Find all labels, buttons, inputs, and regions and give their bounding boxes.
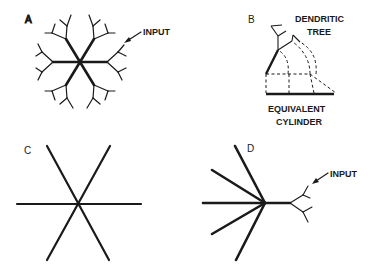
input-arrow-d	[316, 173, 328, 181]
input-label-d: INPUT	[330, 169, 358, 179]
panel-a: A	[25, 14, 171, 108]
dendritic-label: DENDRITIC	[295, 14, 344, 24]
panel-b-label: B	[248, 14, 255, 25]
figure-canvas: A	[0, 0, 373, 269]
cylinder-label: CYLINDER	[276, 117, 323, 127]
panel-a-label: A	[25, 14, 32, 25]
input-label-a: INPUT	[143, 27, 171, 37]
tree-label: TREE	[307, 27, 331, 37]
branched-dendrite	[290, 186, 312, 222]
arrowhead-icon	[124, 37, 131, 43]
dendritic-tree	[271, 25, 300, 50]
equivalence-arcs	[266, 42, 336, 93]
equivalent-cylinders	[203, 146, 290, 260]
panel-b: B DENDRITIC TREE EQUIVALENT CYLINDER	[248, 14, 344, 127]
trunk	[266, 50, 278, 74]
panel-d-label: D	[247, 143, 254, 154]
arrowhead-icon	[312, 178, 319, 184]
panel-c-label: C	[24, 145, 31, 156]
panel-d: D INPUT	[203, 143, 358, 260]
equivalent-label: EQUIVALENT	[268, 104, 326, 114]
dendrite-trunks	[53, 39, 107, 85]
panel-c: C	[17, 145, 141, 260]
